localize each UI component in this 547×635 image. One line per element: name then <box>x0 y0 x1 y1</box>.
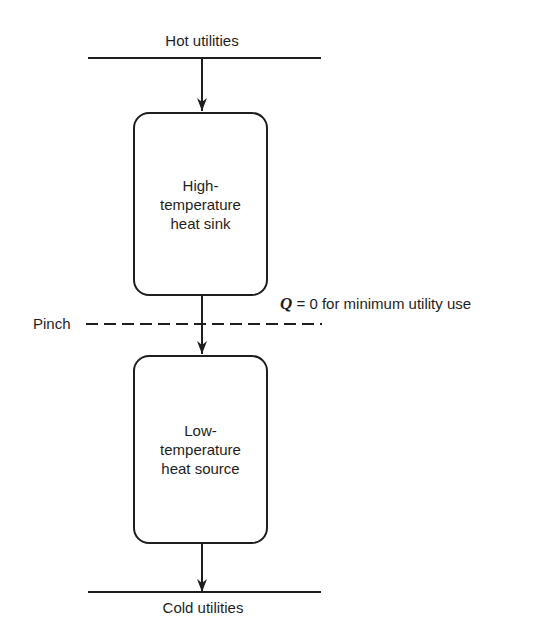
hot-utilities-label: Hot utilities <box>152 32 252 50</box>
pinch-diagram: Hot utilities High- temperature heat sin… <box>0 0 547 635</box>
pinch-annotation: Q = 0 for minimum utility use <box>280 295 471 313</box>
q-variable: Q <box>280 294 292 313</box>
heat-source-line-3: heat source <box>160 459 241 478</box>
heat-source-text: Low- temperature heat source <box>160 421 241 478</box>
pinch-label: Pinch <box>33 315 71 333</box>
heat-source-line-1: Low- <box>160 421 241 440</box>
diagram-connectors <box>0 0 547 635</box>
heat-sink-line-3: heat sink <box>160 214 241 233</box>
cold-utilities-label: Cold utilities <box>148 599 258 617</box>
q-annotation-text: = 0 for minimum utility use <box>292 295 471 312</box>
heat-sink-text: High- temperature heat sink <box>160 176 241 233</box>
heat-sink-line-2: temperature <box>160 195 241 214</box>
low-temperature-heat-source-box: Low- temperature heat source <box>133 355 268 544</box>
heat-source-line-2: temperature <box>160 440 241 459</box>
high-temperature-heat-sink-box: High- temperature heat sink <box>133 112 268 296</box>
heat-sink-line-1: High- <box>160 176 241 195</box>
